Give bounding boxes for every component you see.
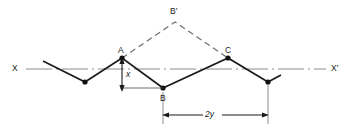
vertex-marker-point-c <box>225 55 230 60</box>
figure-container: X X' A B C B' x 2y <box>0 0 352 135</box>
diagram-canvas <box>0 0 352 135</box>
dimension-label-2y: 2y <box>205 110 214 119</box>
axis-label-left: X <box>12 64 18 73</box>
dashed-apex-path <box>122 22 228 58</box>
vertex-marker-trough-right <box>265 79 270 84</box>
vertex-marker-trough-left <box>82 79 87 84</box>
dimension-x-arrowhead-bottom <box>119 85 124 92</box>
point-label-b: B <box>160 94 166 103</box>
axis-label-right: X' <box>331 64 338 73</box>
point-label-a: A <box>118 46 124 55</box>
point-label-b-prime: B' <box>170 7 177 16</box>
dimension-label-x: x <box>126 70 130 79</box>
zigzag-profile-line <box>43 58 281 88</box>
point-label-c: C <box>225 46 231 55</box>
